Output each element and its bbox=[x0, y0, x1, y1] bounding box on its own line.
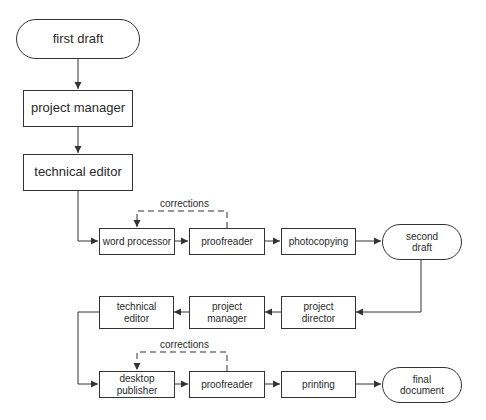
node-final-document: final document bbox=[382, 367, 462, 403]
node-project-manager: project manager bbox=[23, 90, 133, 127]
node-technical-editor-label: technical editor bbox=[34, 165, 121, 180]
node-proofreader-1-label: proofreader bbox=[201, 236, 253, 248]
dashed-corrections-loop-1 bbox=[137, 211, 227, 228]
node-desktop-publisher-label: desktop publisher bbox=[117, 373, 158, 396]
corrections-label-1: corrections bbox=[160, 198, 209, 209]
node-project-manager-label: project manager bbox=[31, 101, 125, 116]
flowchart-connectors bbox=[0, 0, 486, 420]
node-printing-label: printing bbox=[302, 379, 335, 391]
arrow-technical-editor-to-word-processor bbox=[78, 190, 98, 241]
node-proofreader-2-label: proofreader bbox=[201, 379, 253, 391]
node-word-processor: word processor bbox=[99, 228, 175, 255]
node-proofreader-1: proofreader bbox=[189, 228, 265, 255]
node-first-draft-label: first draft bbox=[53, 32, 104, 47]
node-second-draft-label: second draft bbox=[406, 231, 438, 254]
node-photocopying: photocopying bbox=[281, 228, 356, 255]
arrow-technical-editor-to-desktop-publisher bbox=[78, 312, 99, 384]
node-second-draft: second draft bbox=[382, 224, 462, 260]
node-technical-editor: technical editor bbox=[23, 154, 133, 191]
node-printing: printing bbox=[281, 371, 356, 398]
node-technical-editor-2-label: technical editor bbox=[117, 301, 156, 324]
node-project-director-label: project director bbox=[302, 301, 335, 324]
node-final-document-label: final document bbox=[400, 374, 444, 397]
node-project-director: project director bbox=[281, 296, 356, 329]
arrow-second-draft-to-project-director bbox=[356, 259, 421, 312]
node-project-manager-2-label: project manager bbox=[207, 301, 246, 324]
corrections-label-2: corrections bbox=[160, 339, 209, 350]
node-project-manager-2: project manager bbox=[189, 296, 265, 329]
node-photocopying-label: photocopying bbox=[289, 236, 349, 248]
node-word-processor-label: word processor bbox=[103, 236, 171, 248]
dashed-corrections-loop-2 bbox=[137, 352, 227, 371]
node-proofreader-2: proofreader bbox=[189, 371, 265, 398]
node-first-draft: first draft bbox=[16, 19, 140, 59]
node-technical-editor-2: technical editor bbox=[99, 296, 174, 329]
node-desktop-publisher: desktop publisher bbox=[99, 371, 175, 398]
